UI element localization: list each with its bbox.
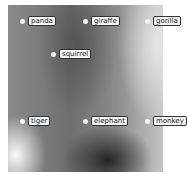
point-label: elephant: [91, 116, 128, 126]
point-marker-icon: [20, 119, 25, 124]
point-panda: panda: [20, 16, 56, 26]
point-marker-icon: [83, 119, 88, 124]
point-marker-icon: [145, 119, 150, 124]
point-tiger: tiger: [20, 116, 50, 126]
point-label: panda: [28, 16, 56, 26]
point-elephant: elephant: [83, 116, 128, 126]
point-marker-icon: [145, 19, 150, 24]
plot-area: [8, 5, 163, 172]
point-label: monkey: [153, 116, 187, 126]
point-marker-icon: [51, 52, 56, 57]
point-monkey: monkey: [145, 116, 187, 126]
point-label: squirrel: [59, 49, 91, 59]
point-marker-icon: [83, 19, 88, 24]
point-squirrel: squirrel: [51, 49, 91, 59]
point-gorilla: gorilla: [145, 16, 181, 26]
point-marker-icon: [20, 19, 25, 24]
point-label: tiger: [28, 116, 50, 126]
point-giraffe: giraffe: [83, 16, 120, 26]
point-label: giraffe: [91, 16, 120, 26]
point-label: gorilla: [153, 16, 181, 26]
